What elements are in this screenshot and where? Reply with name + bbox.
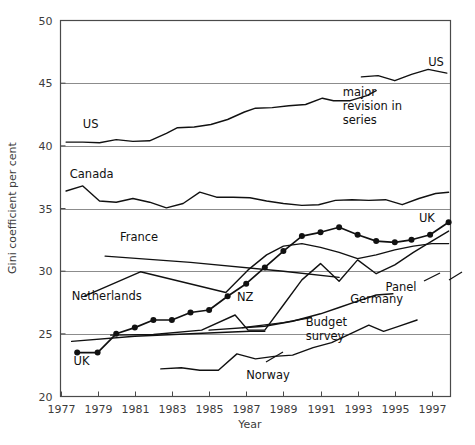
x-tick-label: 1979 xyxy=(85,403,113,416)
series-label-uk-end: UK xyxy=(419,211,435,225)
series-line-norway xyxy=(161,320,417,370)
series-label-uk: UK xyxy=(74,354,90,368)
data-point-marker xyxy=(336,224,342,230)
annotation-1-line-1: survey xyxy=(306,329,345,343)
data-point-marker xyxy=(225,293,231,299)
annotation-0-line-0: major xyxy=(343,85,376,99)
series-line-us xyxy=(66,91,376,143)
series-label-us: US xyxy=(83,117,99,131)
y-tick-label: 25 xyxy=(39,328,53,341)
x-tick-label: 1997 xyxy=(419,403,447,416)
x-tick-label: 1987 xyxy=(233,403,261,416)
x-tick-label: 1993 xyxy=(345,403,373,416)
x-tick-label: 1985 xyxy=(196,403,224,416)
data-point-marker xyxy=(188,310,194,316)
series-label-us-revised: US xyxy=(428,55,444,69)
series-line-france xyxy=(105,256,339,277)
data-series-lines xyxy=(66,69,449,370)
x-tick-label: 1995 xyxy=(382,403,410,416)
annotation-0-line-1: revision in xyxy=(343,99,402,113)
y-tick-label: 40 xyxy=(39,140,53,153)
gini-coefficient-line-chart: 20253035404550 1977197919811983198519871… xyxy=(0,0,475,445)
data-point-marker xyxy=(113,331,119,337)
data-point-marker xyxy=(150,317,156,323)
plot-frame xyxy=(61,21,451,397)
data-point-marker xyxy=(427,232,433,238)
annotation-0-line-2: series xyxy=(343,113,377,127)
y-tick-label: 50 xyxy=(39,15,53,28)
y-tick-labels: 20253035404550 xyxy=(39,15,66,404)
data-point-marker xyxy=(373,238,379,244)
data-point-marker xyxy=(206,307,212,313)
data-point-marker xyxy=(409,237,415,243)
leader-lines xyxy=(266,272,462,362)
chart-figure: 20253035404550 1977197919811983198519871… xyxy=(0,0,475,445)
y-tick-label: 30 xyxy=(39,265,53,278)
series-label-germany: Germany xyxy=(350,292,403,306)
x-tick-label: 1983 xyxy=(159,403,187,416)
series-label-france: France xyxy=(120,230,158,244)
data-point-marker xyxy=(243,281,249,287)
series-line-canada xyxy=(66,186,449,208)
x-tick-label: 1981 xyxy=(122,403,150,416)
data-point-marker xyxy=(262,264,268,270)
y-tick-label: 45 xyxy=(39,77,53,90)
data-point-marker xyxy=(355,232,361,238)
y-axis-title: Gini coefficient per cent xyxy=(6,141,19,273)
series-label-nz: NZ xyxy=(237,290,254,304)
y-tick-label: 35 xyxy=(39,203,53,216)
data-point-marker xyxy=(299,233,305,239)
data-point-marker xyxy=(446,219,452,225)
x-tickmarks xyxy=(62,392,433,397)
x-tick-label: 1991 xyxy=(308,403,336,416)
x-tick-label: 1977 xyxy=(48,403,76,416)
data-point-marker xyxy=(318,229,324,235)
series-label-canada: Canada xyxy=(70,167,114,181)
x-axis-title: Year xyxy=(237,418,262,431)
annotation-1-line-0: Budget xyxy=(306,315,348,329)
data-point-marker xyxy=(392,239,398,245)
x-tick-labels: 1977197919811983198519871989199119931995… xyxy=(48,403,447,416)
data-point-marker xyxy=(95,350,101,356)
series-label-netherlands: Netherlands xyxy=(72,289,142,303)
data-point-marker xyxy=(132,325,138,331)
series-label-norway: Norway xyxy=(246,368,290,382)
series-line-us-revised xyxy=(361,69,446,80)
data-point-marker xyxy=(169,317,175,323)
data-point-marker xyxy=(280,248,286,254)
x-tick-label: 1989 xyxy=(270,403,298,416)
series-line-germany xyxy=(243,318,312,328)
